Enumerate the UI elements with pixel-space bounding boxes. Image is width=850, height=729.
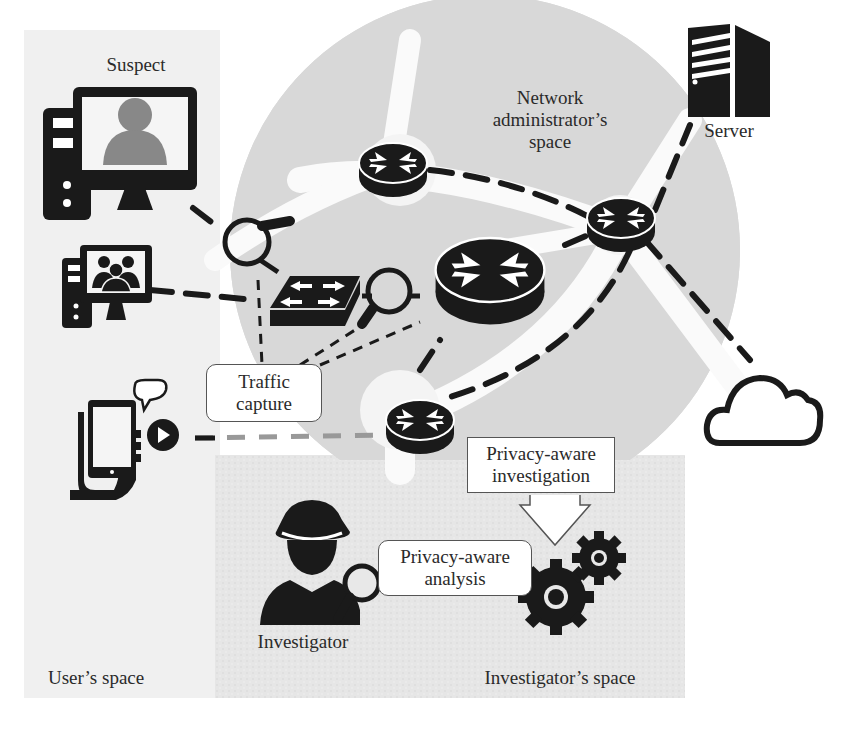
investigator-label: Investigator: [238, 631, 368, 653]
diagram-canvas: Suspect Server Network administrator’s s…: [0, 0, 850, 729]
users-space-label: User’s space: [48, 667, 168, 689]
traffic-capture-box: Traffic capture: [206, 364, 322, 422]
network-admin-space-label: Network administrator’s space: [470, 87, 630, 153]
investigators-space-label: Investigator’s space: [465, 667, 655, 689]
router-icon: [386, 400, 454, 454]
server-icon: [688, 24, 770, 117]
privacy-aware-analysis-box: Privacy-aware analysis: [378, 540, 532, 596]
router-icon: [436, 238, 545, 324]
router-icon: [587, 198, 655, 252]
privacy-aware-investigation-box: Privacy-aware investigation: [467, 437, 615, 493]
server-label: Server: [689, 120, 769, 142]
suspect-label: Suspect: [96, 54, 176, 76]
router-icon: [359, 143, 427, 197]
